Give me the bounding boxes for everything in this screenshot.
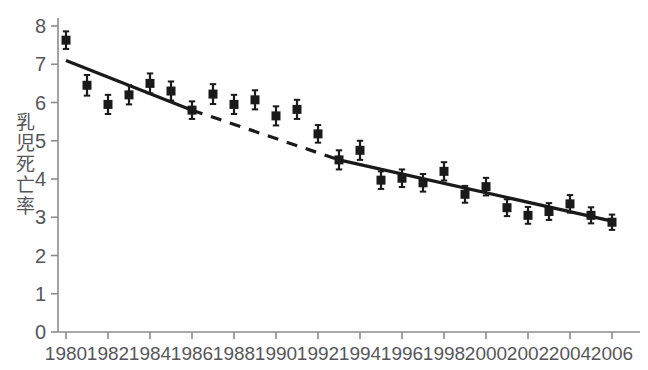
data-point <box>356 141 365 160</box>
data-point <box>314 125 323 143</box>
data-point-marker <box>146 79 155 88</box>
data-point-marker <box>272 111 281 120</box>
y-axis-ticks: 012345678 <box>35 15 58 343</box>
data-point-marker <box>209 90 218 99</box>
data-point <box>587 207 596 223</box>
data-point-marker <box>104 100 113 109</box>
data-point <box>608 215 617 230</box>
x-tick-label: 1988 <box>213 343 255 364</box>
data-point <box>293 100 302 119</box>
data-point-marker <box>503 203 512 212</box>
data-point-marker <box>230 100 239 109</box>
chart-container: 乳児死亡率 012345678 198019821984198619881990… <box>0 0 648 370</box>
x-tick-label: 1992 <box>297 343 339 364</box>
x-tick-label: 1996 <box>381 343 423 364</box>
y-tick-label: 5 <box>35 130 46 152</box>
axes-group <box>58 18 640 332</box>
data-point-marker <box>335 155 344 164</box>
x-tick-label: 1980 <box>45 343 87 364</box>
data-point <box>230 95 239 114</box>
data-point <box>188 101 197 119</box>
data-point-marker <box>398 174 407 183</box>
data-point-marker <box>587 211 596 220</box>
data-point-marker <box>251 95 260 104</box>
y-tick-label: 1 <box>35 283 46 305</box>
x-tick-label: 1982 <box>87 343 129 364</box>
data-point <box>251 90 260 109</box>
data-point-marker <box>314 129 323 138</box>
data-point <box>524 207 533 224</box>
y-tick-label: 7 <box>35 53 46 75</box>
data-point <box>83 75 92 96</box>
data-point <box>167 81 176 100</box>
y-tick-label: 8 <box>35 15 46 37</box>
data-point-marker <box>461 190 470 199</box>
data-point <box>209 84 218 104</box>
data-point <box>62 31 71 49</box>
x-tick-label: 1984 <box>129 343 172 364</box>
data-point <box>503 199 512 216</box>
x-tick-label: 1986 <box>171 343 213 364</box>
data-point-marker <box>293 105 302 114</box>
data-point-marker <box>125 90 134 99</box>
infant-mortality-scatter-chart: 012345678 198019821984198619881990199219… <box>0 0 648 370</box>
data-point-marker <box>545 207 554 216</box>
x-tick-label: 1994 <box>339 343 382 364</box>
x-tick-label: 1998 <box>423 343 465 364</box>
y-tick-label: 2 <box>35 245 46 267</box>
x-tick-label: 1990 <box>255 343 297 364</box>
data-point-marker <box>356 146 365 155</box>
data-point-marker <box>188 106 197 115</box>
data-point-marker <box>524 211 533 220</box>
y-tick-label: 3 <box>35 206 46 228</box>
y-tick-label: 0 <box>35 321 46 343</box>
data-point-marker <box>566 199 575 208</box>
x-tick-label: 2006 <box>591 343 633 364</box>
data-point-marker <box>83 81 92 90</box>
x-tick-label: 2000 <box>465 343 507 364</box>
data-point-marker <box>167 87 176 96</box>
data-point <box>146 73 155 93</box>
data-point <box>440 162 449 180</box>
data-point <box>335 150 344 169</box>
data-point-marker <box>482 182 491 191</box>
data-point-marker <box>62 36 71 45</box>
x-tick-label: 2004 <box>549 343 592 364</box>
data-points-group <box>62 31 617 230</box>
data-point-marker <box>440 167 449 176</box>
data-point-marker <box>608 218 617 227</box>
data-point <box>272 106 281 125</box>
x-axis-ticks: 1980198219841986198819901992199419961998… <box>45 332 633 364</box>
data-point-marker <box>377 176 386 185</box>
x-tick-label: 2002 <box>507 343 549 364</box>
data-point <box>377 171 386 189</box>
y-tick-label: 4 <box>35 168 46 190</box>
y-tick-label: 6 <box>35 92 46 114</box>
data-point <box>104 95 113 114</box>
data-point-marker <box>419 178 428 187</box>
